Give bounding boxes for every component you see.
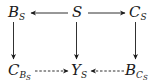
- commutative-diagram: BS S CS CBS YS BCS: [0, 0, 158, 80]
- arrows-layer: [0, 0, 158, 80]
